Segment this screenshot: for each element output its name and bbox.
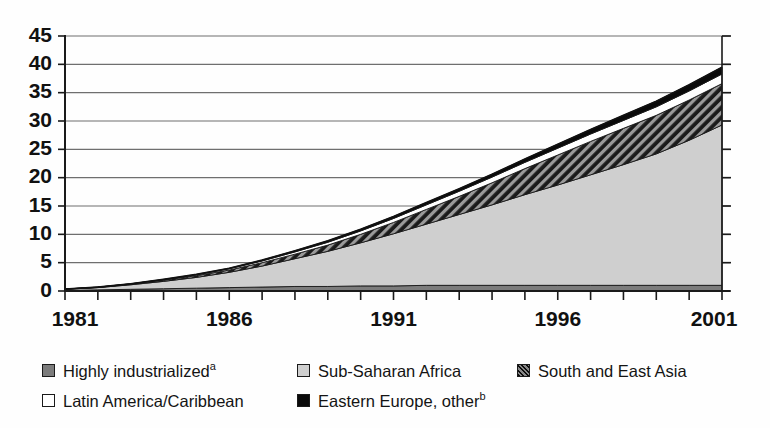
y-tick-label: 0 <box>40 278 52 301</box>
x-tick-label: 2001 <box>691 307 738 330</box>
chart-legend: Highly industrializeda Sub-Saharan Afric… <box>0 352 770 428</box>
legend-swatch-highly-industrialized <box>42 364 55 377</box>
legend-swatch-sub-saharan-africa <box>297 364 310 377</box>
legend-label-eastern-europe-other: Eastern Europe, otherb <box>318 391 486 409</box>
x-tick-label: 1986 <box>206 307 253 330</box>
legend-swatch-latin-america-caribbean <box>42 394 55 407</box>
legend-label-highly-industrialized: Highly industrializeda <box>63 361 216 379</box>
y-tick-label: 20 <box>29 164 52 187</box>
y-tick-label: 40 <box>29 51 52 74</box>
legend-swatch-eastern-europe-other <box>297 394 310 407</box>
legend-item-sub-saharan-africa[interactable]: Sub-Saharan Africa <box>297 356 461 384</box>
legend-label-south-and-east-asia: South and East Asia <box>538 361 687 379</box>
y-tick-label: 35 <box>29 79 53 102</box>
y-tick-label: 10 <box>29 221 52 244</box>
x-tick-label: 1996 <box>534 307 581 330</box>
x-axis-ticks <box>65 291 722 300</box>
legend-swatch-south-and-east-asia <box>517 364 530 377</box>
legend-item-latin-america-caribbean[interactable]: Latin America/Caribbean <box>42 386 244 414</box>
y-tick-label: 30 <box>29 108 52 131</box>
legend-item-highly-industrialized[interactable]: Highly industrializeda <box>42 356 216 384</box>
stacked-area-chart: 051015202530354045 19811986199119962001 … <box>0 0 770 428</box>
y-tick-label: 15 <box>29 193 53 216</box>
x-axis-tick-labels: 19811986199119962001 <box>52 307 738 330</box>
x-tick-label: 1981 <box>52 307 99 330</box>
legend-item-south-and-east-asia[interactable]: South and East Asia <box>517 356 687 384</box>
y-tick-label: 5 <box>40 249 52 272</box>
y-tick-label: 25 <box>29 136 53 159</box>
area-series-group <box>65 67 722 291</box>
y-tick-label: 45 <box>29 23 53 46</box>
x-tick-label: 1991 <box>370 307 417 330</box>
legend-row-1: Highly industrializeda Sub-Saharan Afric… <box>0 356 770 384</box>
legend-label-sub-saharan-africa: Sub-Saharan Africa <box>318 361 461 379</box>
legend-label-latin-america-caribbean: Latin America/Caribbean <box>63 391 244 409</box>
legend-row-2: Latin America/Caribbean Eastern Europe, … <box>0 386 770 414</box>
y-axis-tick-labels: 051015202530354045 <box>29 23 53 301</box>
legend-item-eastern-europe-other[interactable]: Eastern Europe, otherb <box>297 386 486 414</box>
